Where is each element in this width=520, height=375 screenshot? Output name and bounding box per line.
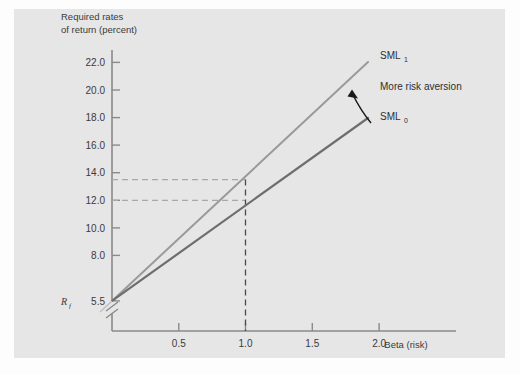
- y-ticks-group: [112, 62, 120, 301]
- sml0-label: SML 0: [380, 111, 408, 124]
- sml0-label-text: SML: [380, 111, 401, 122]
- sml0-label-subscript: 0: [404, 117, 408, 124]
- x-axis-title: Beta (risk): [384, 339, 427, 350]
- y-tick-labels-group: 22.0 20.0 18.0 16.0 14.0 12.0 10.0 8.0 5…: [86, 57, 106, 307]
- y-axis-title-line1: Required rates: [61, 11, 124, 22]
- sml1-label-subscript: 1: [404, 56, 408, 63]
- security-market-line-chart: 22.0 20.0 18.0 16.0 14.0 12.0 10.0 8.0 5…: [0, 0, 520, 375]
- y-tick-label-rf-value: 5.5: [91, 296, 105, 307]
- risk-free-rate-symbol: R: [60, 296, 67, 307]
- axes-group: [106, 50, 456, 331]
- y-tick-label-20: 20.0: [86, 85, 106, 96]
- more-risk-aversion-text: More risk aversion: [380, 81, 462, 92]
- sml0-line: [112, 118, 368, 301]
- y-tick-label-8: 8.0: [91, 250, 105, 261]
- risk-free-rate-subscript: f: [69, 302, 72, 310]
- x-tick-label-1-5: 1.5: [305, 338, 319, 349]
- sml1-label: SML 1: [380, 50, 408, 63]
- arrow-head-icon: [348, 90, 359, 99]
- risk-free-rate-label: R f: [60, 296, 72, 310]
- y-axis-title: Required rates of return (percent): [61, 11, 137, 35]
- y-tick-label-22: 22.0: [86, 57, 106, 68]
- x-tick-label-0-5: 0.5: [172, 338, 186, 349]
- reference-lines-group: [112, 180, 246, 331]
- y-tick-label-10: 10.0: [86, 223, 106, 234]
- sml1-line: [112, 62, 368, 301]
- x-tick-label-1-0: 1.0: [239, 338, 253, 349]
- y-axis-title-line2: of return (percent): [61, 24, 137, 35]
- y-tick-label-12: 12.0: [86, 195, 106, 206]
- curved-arrow-icon: [353, 94, 372, 123]
- y-tick-label-14: 14.0: [86, 167, 106, 178]
- x-ticks-group: [179, 323, 379, 331]
- sml1-label-text: SML: [380, 50, 401, 61]
- x-tick-labels-group: 0.5 1.0 1.5 2.0: [172, 338, 387, 349]
- y-tick-label-16: 16.0: [86, 140, 106, 151]
- y-tick-label-18: 18.0: [86, 112, 106, 123]
- chart-screenshot: 22.0 20.0 18.0 16.0 14.0 12.0 10.0 8.0 5…: [0, 0, 520, 375]
